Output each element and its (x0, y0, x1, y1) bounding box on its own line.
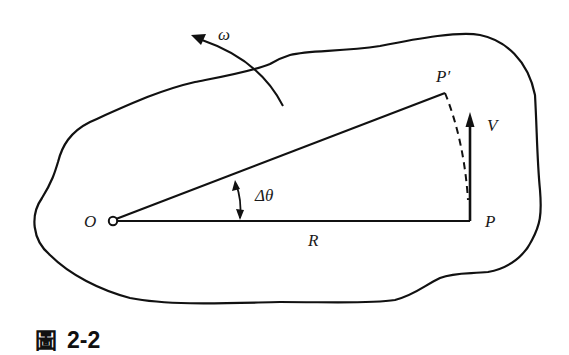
arc-p-prime-to-p (445, 93, 468, 200)
label-radius: R (307, 231, 319, 250)
label-delta-theta: Δθ (254, 186, 273, 205)
label-point-p: P (484, 212, 495, 231)
delta-theta-arrowhead-bottom-icon (236, 209, 244, 220)
rotating-body-diagram: ω O P P′ V Δθ R 圖 2-2 (0, 0, 569, 355)
label-point-p-prime: P′ (435, 67, 450, 86)
label-velocity: V (487, 116, 500, 135)
delta-theta-arrowhead-top-icon (232, 180, 240, 191)
origin-pivot (109, 217, 117, 225)
figure-caption-number: 2-2 (67, 327, 100, 353)
omega-arrowhead-icon (191, 34, 206, 45)
velocity-arrowhead-icon (466, 112, 475, 127)
label-omega: ω (218, 25, 230, 44)
label-origin: O (84, 212, 96, 231)
radius-line-op-prime (116, 93, 445, 219)
figure-caption-char: 圖 (35, 328, 57, 353)
